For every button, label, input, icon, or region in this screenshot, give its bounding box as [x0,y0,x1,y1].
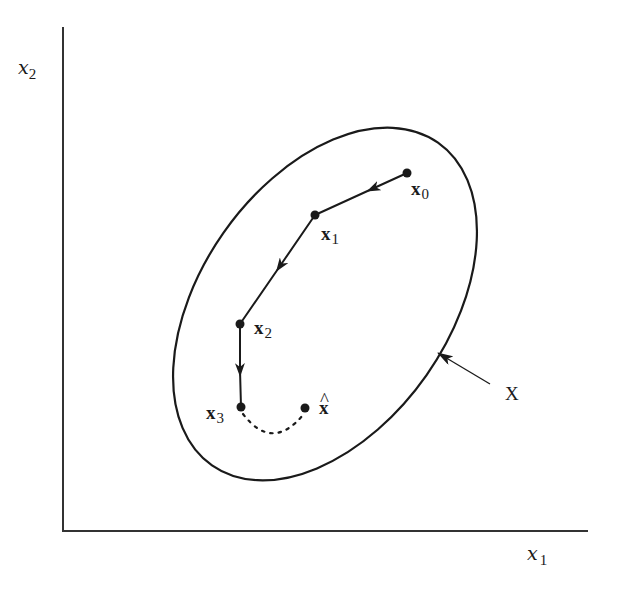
x-axis-label: x1 [527,542,547,568]
label-x1: x1 [321,223,339,247]
segment-x1-x2 [240,215,315,324]
region-pointer-arrow [438,353,490,384]
point-x2 [236,320,245,329]
segment-x0-x1 [315,173,407,215]
point-xhat [301,404,310,413]
point-x0 [403,169,412,178]
axes [62,27,588,531]
iterative-sequence-diagram: x2 x1 x0 x1 x2 x3 x ^ X [0,0,617,593]
region-label: X [505,383,519,404]
label-xhat-hat: ^ [320,389,329,410]
point-x3 [237,403,246,412]
iteration-path [240,173,407,407]
label-x2: x2 [254,317,272,341]
region-ellipse [110,72,539,537]
segment-x2-x3 [240,324,241,407]
label-x3: x3 [206,402,224,426]
dotted-convergence-arc [243,414,303,433]
y-axis-label: x2 [18,56,36,82]
label-x0: x0 [411,178,429,202]
point-x1 [311,211,320,220]
